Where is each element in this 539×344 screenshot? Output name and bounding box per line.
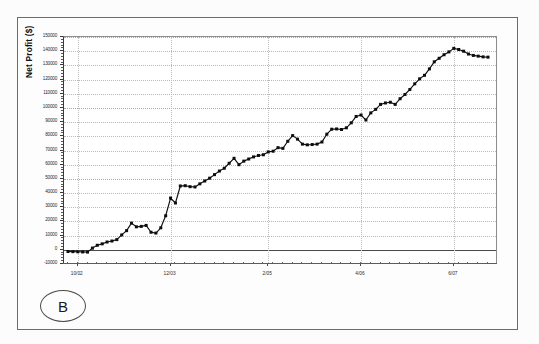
y-axis-minor-tick (61, 47, 63, 48)
y-axis-minor-tick (61, 67, 63, 68)
data-point (301, 143, 304, 146)
data-point (262, 153, 265, 156)
data-point (150, 231, 153, 234)
data-point (345, 126, 348, 129)
y-axis-tick-label: 10000 (18, 232, 57, 237)
data-point (291, 134, 294, 137)
data-point (325, 133, 328, 136)
y-axis-minor-tick (61, 90, 63, 91)
y-axis-minor-tick (61, 175, 63, 176)
y-axis-minor-tick (61, 260, 63, 261)
y-axis-tick-mark (60, 206, 63, 207)
y-axis-minor-tick (61, 39, 63, 40)
x-axis-tick-label: 6/07 (448, 271, 457, 276)
y-axis-minor-tick (61, 152, 63, 153)
y-axis-tick-label: 110000 (18, 90, 57, 95)
x-axis-line (63, 263, 497, 264)
y-axis-minor-tick (61, 246, 63, 247)
data-point (223, 167, 226, 170)
y-axis-minor-tick (61, 53, 63, 54)
data-point (281, 147, 284, 150)
data-point (218, 170, 221, 173)
data-point (145, 224, 148, 227)
y-axis-tick-mark (60, 36, 63, 37)
data-point (472, 54, 475, 57)
data-point (355, 115, 358, 118)
data-point (189, 185, 192, 188)
data-point (350, 121, 353, 124)
y-axis-tick-label: -10000 (18, 260, 57, 265)
data-point (389, 101, 392, 104)
data-point (208, 177, 211, 180)
y-axis-minor-tick (61, 132, 63, 133)
data-series-net-profit (64, 37, 496, 263)
y-axis-minor-tick (61, 198, 63, 199)
y-axis-minor-tick (61, 155, 63, 156)
figure-panel: 1500001400001300001200001100001000009000… (17, 17, 518, 330)
data-point (179, 184, 182, 187)
y-axis-minor-tick (61, 257, 63, 258)
data-point (394, 103, 397, 106)
data-point (330, 128, 333, 131)
y-axis-tick-mark (60, 93, 63, 94)
y-axis-minor-tick (61, 184, 63, 185)
data-point (120, 233, 123, 236)
data-point (184, 184, 187, 187)
data-point (154, 232, 157, 235)
y-axis-minor-tick (61, 141, 63, 142)
data-point (374, 108, 377, 111)
y-axis-tick-label: 90000 (18, 118, 57, 123)
y-axis-tick-mark (60, 64, 63, 65)
y-axis-minor-tick (61, 243, 63, 244)
y-axis-tick-mark (60, 50, 63, 51)
data-point (174, 201, 177, 204)
data-point (467, 53, 470, 56)
y-axis-minor-tick (61, 232, 63, 233)
y-axis-tick-label: 80000 (18, 132, 57, 137)
data-point (408, 88, 411, 91)
data-point (418, 77, 421, 80)
data-point (428, 67, 431, 70)
data-point (67, 250, 70, 253)
data-point (257, 154, 260, 157)
y-axis-minor-tick (61, 130, 63, 131)
y-axis-minor-tick (61, 45, 63, 46)
data-point (384, 101, 387, 104)
y-axis-minor-tick (61, 218, 63, 219)
data-point (482, 55, 485, 58)
y-axis-tick-mark (60, 107, 63, 108)
y-axis-minor-tick (61, 124, 63, 125)
y-axis-minor-tick (61, 147, 63, 148)
y-axis-minor-tick (61, 84, 63, 85)
data-point (228, 162, 231, 165)
x-axis-tick-label: 2/05 (263, 271, 272, 276)
x-axis-tick-label: 10/02 (71, 271, 83, 276)
data-point (296, 138, 299, 141)
data-point (447, 50, 450, 53)
data-point (135, 225, 138, 228)
data-point (306, 143, 309, 146)
y-axis-minor-tick (61, 101, 63, 102)
y-axis-minor-tick (61, 172, 63, 173)
y-axis-tick-label: 70000 (18, 147, 57, 152)
y-axis-tick-mark (60, 235, 63, 236)
y-axis-tick-mark (60, 150, 63, 151)
y-axis-minor-tick (61, 212, 63, 213)
screenshot-root: 1500001400001300001200001100001000009000… (0, 0, 539, 344)
y-axis-minor-tick (61, 59, 63, 60)
data-point (242, 160, 245, 163)
data-point (369, 111, 372, 114)
data-point (140, 225, 143, 228)
y-axis-title: Net Profit ($) (24, 25, 34, 78)
data-point (403, 93, 406, 96)
y-axis-minor-tick (61, 42, 63, 43)
data-point (130, 222, 133, 225)
data-point (286, 140, 289, 143)
y-axis-minor-tick (61, 181, 63, 182)
data-point (272, 150, 275, 153)
series-markers (67, 47, 490, 254)
data-point (423, 74, 426, 77)
y-axis-tick-mark (60, 135, 63, 136)
y-axis-minor-tick (61, 240, 63, 241)
y-axis-minor-tick (61, 158, 63, 159)
